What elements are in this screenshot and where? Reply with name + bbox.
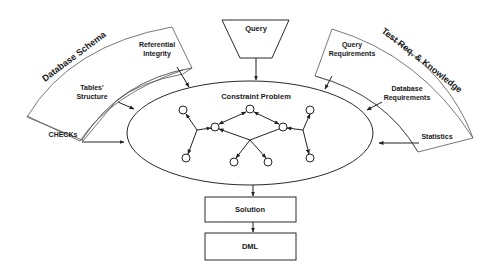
database-requirements-label: Database (391, 85, 422, 92)
graph-node (182, 154, 190, 162)
graph-node (306, 154, 314, 162)
constraint-problem: Constraint Problem (127, 81, 373, 185)
tables-structure-label: Tables' (80, 84, 104, 91)
graph-node (306, 106, 314, 114)
dml-label: DML (242, 242, 259, 251)
query-box: Query (222, 20, 289, 58)
graph-node (264, 158, 272, 166)
solution-box: Solution (205, 197, 296, 222)
graph-node (211, 123, 219, 131)
query-label: Query (245, 24, 268, 33)
statistics-label: Statistics (421, 133, 452, 140)
graph-node (230, 158, 238, 166)
solution-label: Solution (235, 205, 265, 214)
referential-integrity-label-2: Integrity (143, 50, 171, 58)
graph-node (246, 105, 254, 113)
query-requirements-label: Query (342, 41, 362, 49)
graph-node (179, 106, 187, 114)
checks-label: CHECKs (49, 131, 78, 138)
constraint-diagram: Database Schema Referential Integrity Ta… (0, 0, 500, 268)
graph-node (279, 123, 287, 131)
tables-arrow (118, 102, 134, 109)
tables-structure-label-2: Structure (76, 93, 107, 100)
query-requirements-label-2: Requirements (329, 50, 376, 58)
referential-integrity-label: Referential (139, 41, 175, 48)
constraint-problem-title: Constraint Problem (221, 92, 291, 101)
database-requirements-label-2: Requirements (384, 94, 431, 102)
dml-box: DML (205, 233, 296, 260)
